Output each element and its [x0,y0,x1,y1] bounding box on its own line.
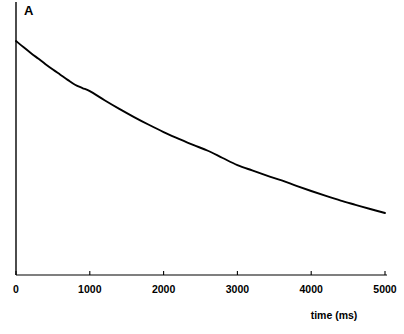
x-axis-tick-label: 1000 [78,284,101,295]
x-axis-tick-label: 2000 [152,284,175,295]
chart-figure: A 010002000300040005000 time (ms) [0,0,404,334]
x-axis-title: time (ms) [311,310,358,321]
x-axis-tick-label: 4000 [300,284,323,295]
x-axis-tick-label: 0 [13,284,19,295]
decay-curve [16,41,385,213]
panel-label-a: A [24,4,33,17]
x-axis-tick-label: 3000 [226,284,249,295]
x-axis-ticks [16,271,385,275]
plot-canvas [0,0,404,334]
x-axis-tick-label: 5000 [373,284,396,295]
